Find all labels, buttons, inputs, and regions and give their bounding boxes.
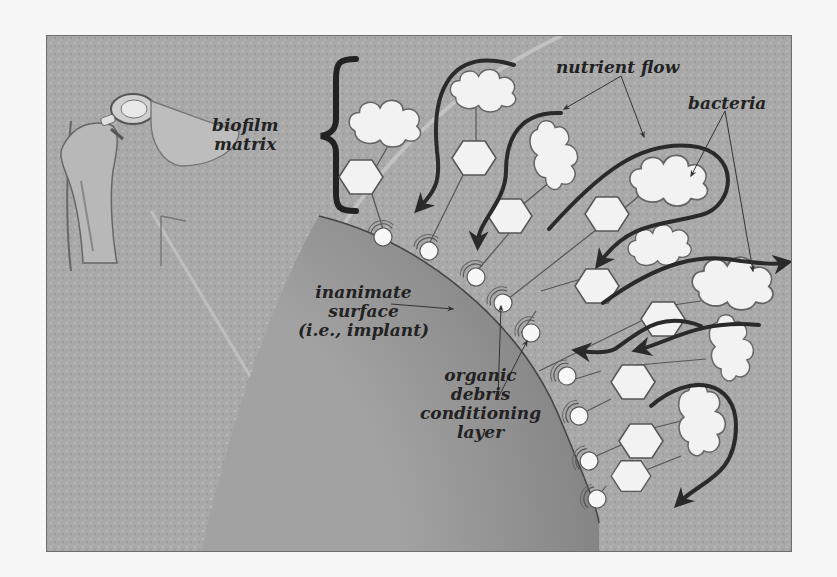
label-line: conditioning [420, 404, 541, 423]
label-line: debris [420, 385, 541, 404]
biofilm-diagram: biofilm matrix nutrient flow bacteria in… [46, 35, 792, 552]
bacteria-label: bacteria [688, 94, 766, 113]
biofilm-matrix-label: biofilm matrix [212, 116, 279, 154]
inanimate-surface-label: inanimate surface (i.e., implant) [298, 283, 429, 340]
label-line: biofilm [212, 116, 279, 135]
label-line: surface [298, 302, 429, 321]
label-line: layer [420, 423, 541, 442]
nutrient-flow-label: nutrient flow [556, 58, 679, 77]
label-line: nutrient flow [556, 58, 679, 77]
label-line: inanimate [298, 283, 429, 302]
label-line: bacteria [688, 94, 766, 113]
conditioning-layer-label: organic debris conditioning layer [420, 366, 541, 442]
label-line: matrix [212, 135, 279, 154]
label-line: (i.e., implant) [298, 321, 429, 340]
label-line: organic [420, 366, 541, 385]
